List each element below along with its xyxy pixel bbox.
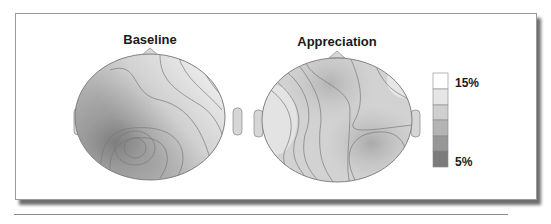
nose-icon (329, 51, 345, 58)
appreciation-topomap (253, 51, 423, 185)
topomap-canvas (0, 0, 551, 224)
right-ear-icon (233, 108, 242, 135)
panel-title-appreciation: Appreciation (292, 34, 382, 49)
baseline-topomap (70, 48, 242, 185)
right-ear-icon (411, 110, 420, 137)
colorbar (433, 73, 448, 167)
colorbar-max-label: 15% (455, 76, 479, 90)
colorbar-min-label: 5% (455, 155, 472, 169)
panel-title-baseline: Baseline (108, 32, 192, 47)
separator-line (14, 214, 508, 215)
left-ear-icon (254, 110, 263, 137)
